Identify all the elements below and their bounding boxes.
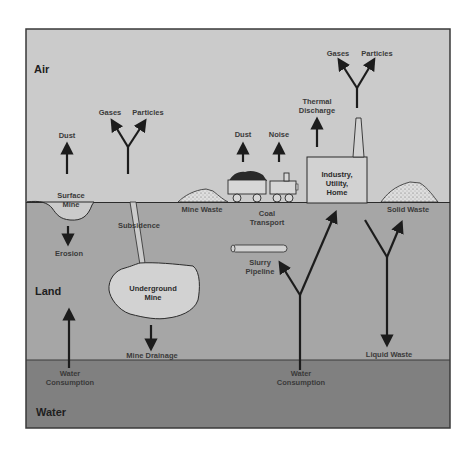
zone-label-air: Air	[34, 63, 49, 75]
label-slurry-pipeline: Slurry Pipeline	[246, 258, 275, 276]
label-dust-mine: Dust	[59, 131, 76, 140]
coal-impact-diagram: Air Land Water Dust Gases Particles Surf…	[0, 0, 472, 453]
zone-label-land: Land	[35, 285, 61, 297]
label-industry: Industry, Utility, Home	[321, 170, 352, 197]
label-gases-mine: Gases	[99, 108, 122, 117]
label-thermal-discharge: Thermal Discharge	[299, 97, 335, 115]
slurry-pipeline	[231, 245, 287, 252]
label-liquid-waste: Liquid Waste	[366, 350, 412, 359]
label-solid-waste: Solid Waste	[387, 205, 429, 214]
label-coal-transport: Coal Transport	[250, 209, 285, 227]
label-mine-drainage: Mine Drainage	[126, 351, 177, 360]
label-particles-mine: Particles	[132, 108, 163, 117]
label-erosion: Erosion	[55, 249, 83, 258]
zone-label-water: Water	[36, 406, 66, 418]
label-noise: Noise	[269, 130, 289, 139]
label-gases-stack: Gases	[327, 49, 350, 58]
label-particles-stack: Particles	[361, 49, 392, 58]
label-water-consumption-left: Water Consumption	[46, 369, 94, 387]
label-surface-mine: Surface Mine	[57, 191, 85, 209]
label-subsidence: Subsidence	[118, 221, 160, 230]
label-dust-train: Dust	[235, 130, 252, 139]
label-underground-mine: Underground Mine	[129, 284, 177, 302]
label-water-consumption-right: Water Consumption	[277, 369, 325, 387]
coal-car	[228, 180, 266, 194]
locomotive	[270, 181, 296, 194]
label-mine-waste: Mine Waste	[182, 205, 223, 214]
